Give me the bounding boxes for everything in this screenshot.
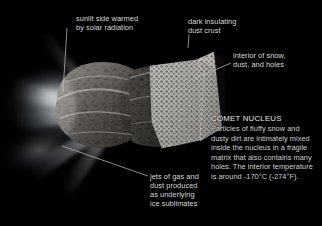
comet-nucleus-description-panel: COMET NUCLEUS Particles of fluffy snow a…	[211, 114, 319, 182]
callout-jets: jets of gas and dust produced as underly…	[150, 172, 199, 208]
panel-body-text: Particles of fluffy snow and dusty dirt …	[211, 124, 319, 182]
callout-dust-crust: dark insulating dust crust	[188, 17, 236, 35]
callout-sunlit-side: sunlit side warmed by solar radiation	[76, 14, 138, 32]
callout-interior: interior of snow, dust, and holes	[233, 51, 286, 69]
panel-heading: COMET NUCLEUS	[211, 114, 319, 124]
comet-nucleus-figure: sunlit side warmed by solar radiation da…	[0, 0, 322, 226]
